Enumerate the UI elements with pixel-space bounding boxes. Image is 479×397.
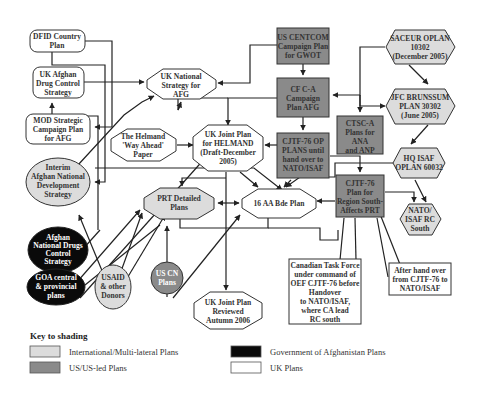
legend-item-us: US/US-led Plans [30,362,127,373]
callout-canadian-task-force: Canadian Task Force under command of OEF… [289,259,361,324]
node-interim-afghan-national-development-strategy[interactable]: Interim Afghan National Development Stra… [26,158,90,206]
callout-text: Canadian Task Force [290,261,360,270]
node-hq-isaf-oplan[interactable]: HQ ISAF OPLAN 60032 [393,148,445,178]
node-label: Strategy [44,88,72,97]
node-label: 2005) [219,157,237,166]
legend-swatch [231,362,261,373]
node-goa-central-provincial-plans[interactable]: GOA central & provincial plans [27,269,85,305]
node-cjtf-76-plan-region-south[interactable]: CJTF-76 Plan for Region South- Affects P… [336,175,384,217]
node-label: US CN [156,269,179,278]
node-label: Plans for [345,128,375,137]
node-jfc-brunssum-plan[interactable]: JFC BRUNSSUM PLAN 30302 (June 2005) [386,89,455,124]
node-label: plans [47,291,64,300]
node-label: Campaign Plan [278,42,329,51]
node-prt-detailed-plans[interactable]: PRT Detailed Plans [144,188,214,219]
node-dfid-country-plan[interactable]: DFID Country Plan [30,30,85,52]
node-label: Drug Control [36,79,80,88]
legend-label: International/Multi-lateral Plans [69,347,178,357]
node-label: South [411,224,431,233]
node-label: Campaign Plan [33,125,84,134]
node-us-centcom-campaign-plan[interactable]: US CENTCOM Campaign Plan for GWOT [277,28,329,64]
node-label: OPLAN 60032 [395,163,443,172]
legend-title: Key to shading [30,331,88,341]
node-label: Region South- [337,197,384,206]
legend-label: Government of Afghanistan Plans [270,347,385,357]
node-label: & provincial [36,282,77,291]
node-label: US CENTCOM [277,33,328,42]
node-label: Development [37,181,80,190]
node-label: PLANS until [282,146,324,155]
node-uk-afghan-drug-control-strategy[interactable]: UK Afghan Drug Control Strategy [33,67,84,98]
node-label: 16 AA Bde Plan [254,199,306,208]
node-label: UK Joint Plan [205,130,252,139]
node-label: ANA [352,137,369,146]
node-label: Plan [50,41,66,50]
node-uk-national-strategy-for-afg[interactable]: UK National Strategy for AFG [147,69,216,99]
node-label: NATO/ISAF [283,164,324,173]
legend: Key to shading International/Multi-later… [30,331,385,373]
node-label: The Helmand [121,132,166,141]
node-label: Autumn 2006 [206,316,250,325]
callout-text: to NATO/ISAF, [300,297,350,306]
node-uk-joint-plan-reviewed[interactable]: UK Joint Plan Reviewed Autumn 2006 [194,292,262,329]
node-label: HQ ISAF [403,154,434,163]
node-16-aa-bde-plan[interactable]: 16 AA Bde Plan [242,189,316,218]
callout-text: where CA lead [301,306,349,315]
node-uk-joint-plan-helmand[interactable]: UK Joint Plan for HELMAND (Draft-Decembe… [193,125,263,171]
legend-item-international: International/Multi-lateral Plans [30,346,178,357]
node-label: hand over to [283,155,324,164]
node-label: Plans [170,203,188,212]
node-label: Reviewed [212,307,244,316]
node-cf-ca-campaign-plan[interactable]: CF C-A Campaign Plan AFG [277,78,329,117]
node-label: NATO/ [408,206,432,215]
node-label: for GWOT [285,51,321,60]
node-label: MOD Strategic [33,116,83,125]
node-label: and ANP [345,146,375,155]
node-cjtf-76-op-plans[interactable]: CJTF-76 OP PLANS until hand over to NATO… [277,133,329,178]
node-label: (June 2005) [401,111,439,120]
node-label: USAID [101,273,125,282]
node-label: Plan for [347,188,374,197]
legend-swatch [30,346,60,357]
node-us-cn-plans[interactable]: US CN Plans [151,262,183,294]
callout-text: NATO/ISAF [400,284,441,293]
node-label: for AFG [44,134,71,143]
node-label: (December 2005) [393,52,448,61]
callout-text: After hand over [394,266,446,275]
node-saceur-oplan[interactable]: SACEUR OPLAN 10302 (December 2005) [386,30,455,64]
node-nato-isaf-rc-south[interactable]: NATO/ ISAF RC South [400,204,441,235]
node-helmand-way-ahead-paper[interactable]: The Helmand 'Way Ahead' Paper [111,129,176,161]
legend-item-goa: Government of Afghanistan Plans [231,346,385,357]
node-label: Campaign [286,94,321,103]
node-label: & other [100,282,126,291]
node-label: Affects PRT [340,206,380,215]
node-label: Strategy [44,190,72,199]
legend-label: UK Plans [270,363,303,373]
node-mod-strategic-campaign-plan[interactable]: MOD Strategic Campaign Plan for AFG [26,114,90,144]
node-label: Interim [46,163,72,172]
legend-label: US/US-led Plans [69,363,127,373]
node-label: JFC BRUNSSUM [391,93,449,102]
node-label: CJTF-76 OP [282,137,324,146]
node-afghan-national-drugs-control-strategy[interactable]: Afghan National Drugs Control Strategy [28,227,88,273]
legend-swatch [231,346,261,357]
callout-text: OEF CJTF-76 before [291,279,360,288]
callout-text: under command of [294,270,356,279]
node-label: Paper [133,150,153,159]
callout-text: from CJTF-76 to [392,275,447,284]
node-ctsc-a-plans[interactable]: CTSC-A Plans for ANA and ANP [337,116,383,155]
callout-text: RC south [310,315,341,324]
node-label: UK Afghan [40,70,78,79]
node-label: SACEUR OPLAN [390,34,450,43]
legend-swatch [30,362,60,373]
node-label: UK National [160,72,201,81]
node-label: ISAF RC [405,215,435,224]
node-label: DFID Country [33,32,81,41]
node-label: PRT Detailed [157,194,201,203]
node-label: 10302 [411,43,430,52]
node-usaid-other-donors[interactable]: USAID & other Donors [95,265,131,309]
node-label: PLAN 30302 [399,102,441,111]
node-label: Plan AFG [287,103,319,112]
node-label: Plans [158,278,176,287]
node-label: CJTF-76 [345,179,374,188]
